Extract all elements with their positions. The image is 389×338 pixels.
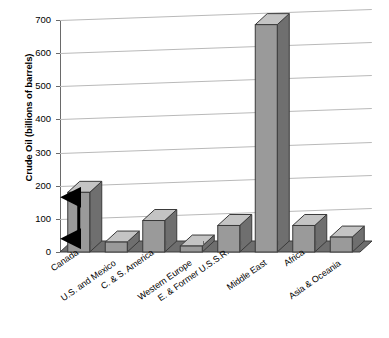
x-tick-mark xyxy=(278,241,279,245)
double-headed-arrow-annotation xyxy=(0,0,389,338)
x-tick-mark xyxy=(203,241,204,245)
x-tick-mark xyxy=(91,241,92,245)
x-tick-mark xyxy=(241,241,242,245)
crude-oil-bar-chart: Crude Oil (billions of barrels) 01002003… xyxy=(0,0,389,338)
x-tick-mark xyxy=(166,241,167,245)
x-tick-mark xyxy=(316,241,317,245)
x-tick-mark xyxy=(128,241,129,245)
plot-area: 0100200300400500600700 CanadaU.S. and Me… xyxy=(0,0,389,338)
x-tick-mark xyxy=(353,241,354,245)
